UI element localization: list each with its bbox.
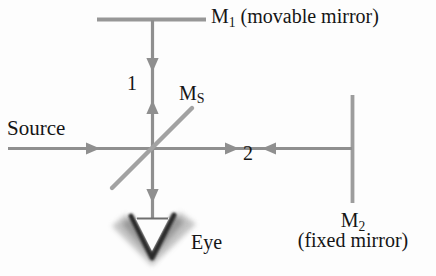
label-mirror-2: M2 (fixed mirror)	[284, 210, 422, 251]
mirror-2-caption: (fixed mirror)	[284, 230, 422, 251]
label-ray-2: 2	[243, 143, 253, 164]
mirror-2-symbol: M	[341, 209, 359, 231]
arm-1-arrowhead-down	[146, 58, 158, 72]
label-ray-1: 1	[127, 73, 137, 94]
label-beam-splitter: MS	[179, 83, 205, 104]
source-ray-arrowhead-right	[86, 142, 100, 154]
arm-1-arrowhead-up	[146, 100, 158, 114]
label-source: Source	[7, 117, 65, 139]
label-eye: Eye	[191, 232, 222, 253]
mirror-2-subscript: 2	[359, 219, 366, 234]
mirror-1-symbol: M	[211, 5, 229, 27]
beam-splitter-symbol: M	[179, 82, 197, 104]
arm-2-arrowhead-right	[225, 142, 239, 154]
eye-symbol	[112, 212, 196, 266]
label-mirror-1: M1 (movable mirror)	[211, 6, 379, 27]
mirror-1-subscript: 1	[229, 15, 236, 30]
interferometer-figure: M1 (movable mirror) MS Source 1 2 Eye M2…	[0, 0, 436, 276]
mirror-1-caption: (movable mirror)	[241, 5, 379, 27]
beam-splitter-subscript: S	[197, 91, 205, 106]
arm-2-arrowhead-left	[262, 142, 276, 154]
output-ray-arrowhead-down	[146, 189, 158, 203]
